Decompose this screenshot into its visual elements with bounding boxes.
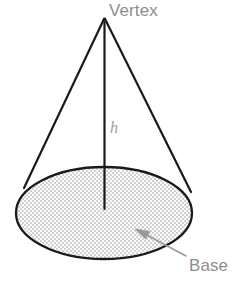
cone-left-slant: [24, 19, 104, 188]
vertex-label: Vertex: [109, 2, 158, 19]
cone-figure: [0, 0, 234, 289]
cone-diagram: Vertex h Base: [0, 0, 234, 289]
apex-point: [103, 17, 106, 20]
base-label: Base: [189, 257, 228, 274]
height-label: h: [110, 120, 118, 136]
cone-right-slant: [105, 19, 191, 192]
